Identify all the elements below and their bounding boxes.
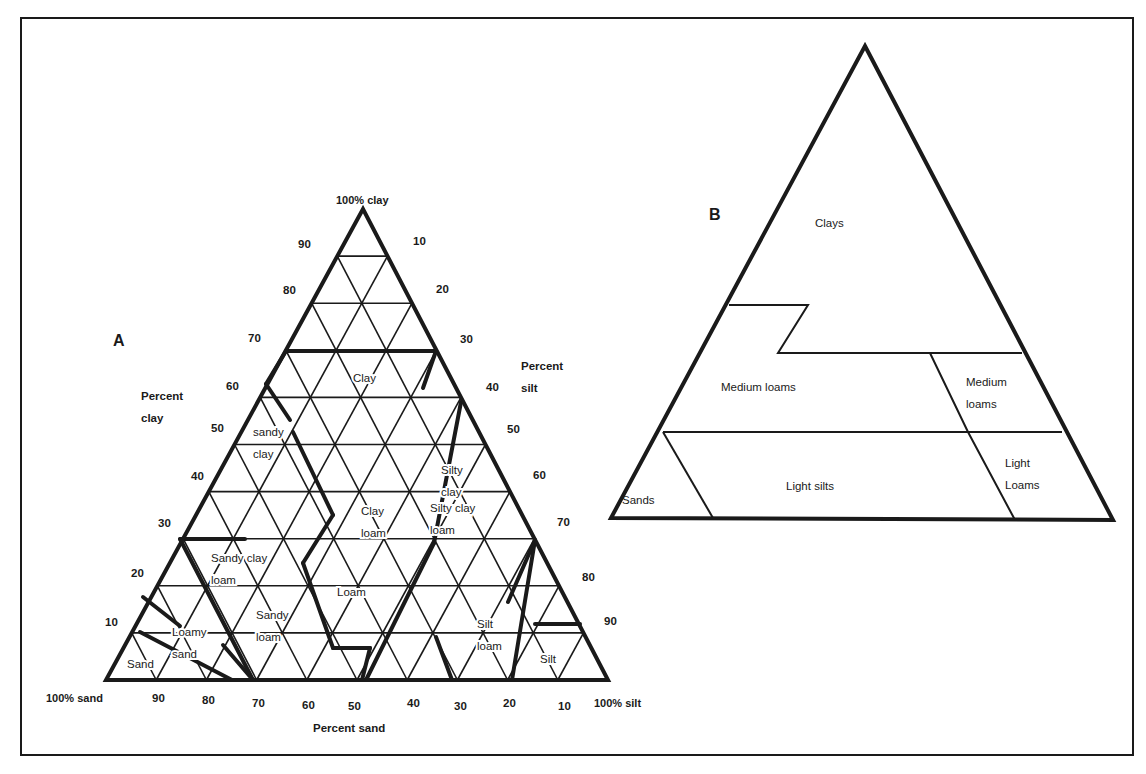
region-medium-loams-left: Medium loams <box>721 381 796 393</box>
silt-tick-label: 50 <box>507 423 520 435</box>
texture-class-sandy-clay-loam: Sandy clayloam <box>211 552 268 586</box>
texture-class-loam: Loam <box>337 586 366 598</box>
clay-tick-label: 20 <box>131 567 144 579</box>
texture-class-clay: Clay <box>353 372 376 384</box>
sand-tick-label: 60 <box>302 699 315 711</box>
silt-tick-label: 90 <box>604 615 617 627</box>
sand-tick-label: 90 <box>152 692 165 704</box>
axis-title-silt: Percentsilt <box>521 360 563 394</box>
sand-tick-label: 10 <box>558 700 571 712</box>
silt-tick-label: 60 <box>533 469 546 481</box>
clay-tick-label: 40 <box>191 470 204 482</box>
grid-line-silt <box>357 445 486 681</box>
silt-tick-label: 40 <box>486 381 499 393</box>
silt-tick-label: 80 <box>582 571 595 583</box>
clay-tick-label: 10 <box>105 616 118 628</box>
axis-title-clay: Percentclay <box>141 390 183 424</box>
texture-class-boundary <box>436 637 452 680</box>
region-divider <box>663 432 713 518</box>
panel-a-grid <box>132 256 584 680</box>
silt-tick-label: 30 <box>460 333 473 345</box>
texture-class-boundary <box>512 540 535 680</box>
panel-b-simplified-triangle: BClaysMedium loamsMediumloamsSandsLight … <box>611 46 1113 520</box>
texture-class-silt-loam: Siltloam <box>477 618 502 652</box>
soil-texture-diagram: A100% clay100% sand100% siltPercentclayP… <box>0 0 1146 774</box>
texture-class-silt: Silt <box>540 653 557 665</box>
silt-tick-label: 70 <box>557 516 570 528</box>
axis-title-sand: Percent sand <box>313 722 385 734</box>
panel-b-dividers <box>663 305 1062 520</box>
texture-class-boundary <box>303 563 333 648</box>
sand-tick-label: 30 <box>454 700 467 712</box>
corner-label-silt: 100% silt <box>594 697 641 709</box>
clay-tick-label: 70 <box>248 332 261 344</box>
region-clays: Clays <box>815 217 844 229</box>
region-divider <box>729 305 1022 353</box>
panel-b-label: B <box>709 206 721 223</box>
panel-a-label: A <box>113 332 125 349</box>
clay-tick-label: 30 <box>158 517 171 529</box>
texture-class-boundary <box>366 543 434 680</box>
region-light-loams: LightLoams <box>1005 457 1040 491</box>
clay-tick-label: 90 <box>298 238 311 250</box>
sand-tick-label: 50 <box>348 700 361 712</box>
grid-line-silt <box>558 633 584 680</box>
corner-label-clay: 100% clay <box>336 194 389 206</box>
clay-tick-label: 50 <box>211 422 224 434</box>
sand-tick-label: 40 <box>407 697 420 709</box>
silt-tick-label: 20 <box>436 283 449 295</box>
texture-class-sand: Sand <box>127 658 154 670</box>
clay-tick-label: 60 <box>226 380 239 392</box>
corner-label-sand: 100% sand <box>46 692 103 704</box>
texture-class-boundary <box>423 351 436 388</box>
sand-tick-label: 20 <box>503 697 516 709</box>
sand-tick-label: 80 <box>202 694 215 706</box>
texture-class-sandy-loam: Sandyloam <box>256 609 289 643</box>
panel-b-outline <box>611 46 1113 520</box>
grid-line-silt <box>257 350 437 680</box>
sand-tick-label: 70 <box>252 697 265 709</box>
panel-b-labels: BClaysMedium loamsMediumloamsSandsLight … <box>622 206 1040 506</box>
silt-tick-label: 10 <box>413 235 426 247</box>
region-medium-loams-right: Mediumloams <box>966 376 1007 410</box>
region-light-silts: Light silts <box>786 480 834 492</box>
panel-a-usda-texture-triangle: A100% clay100% sand100% siltPercentclayP… <box>46 194 641 734</box>
clay-tick-label: 80 <box>283 284 296 296</box>
region-sands: Sands <box>622 494 655 506</box>
texture-class-clay-loam: Clayloam <box>361 505 386 539</box>
